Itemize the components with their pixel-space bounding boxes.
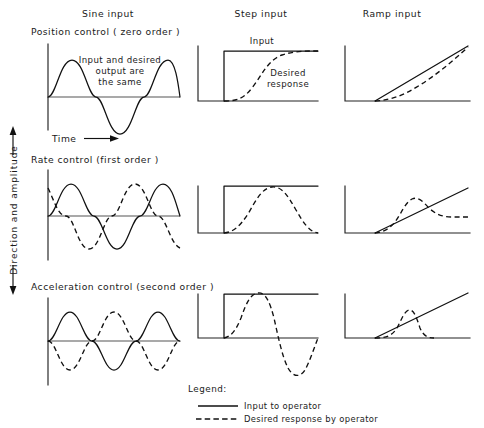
- curve-input-ramp: [375, 293, 468, 338]
- column-header-sine: Sine input: [82, 8, 134, 19]
- legend-item-input: Input to operator: [198, 401, 322, 411]
- curve-desired-ramp-response: [375, 198, 468, 233]
- column-header-ramp: Ramp input: [363, 8, 422, 19]
- curve-desired-step-response: [224, 187, 318, 233]
- panel-rate-ramp: [345, 186, 470, 233]
- column-header-step: Step input: [235, 8, 288, 19]
- panel-axes: [198, 186, 318, 233]
- row-position-control: Position control ( zero order ) Input an…: [31, 26, 470, 134]
- legend-item-desired: Desired response by operator: [196, 414, 378, 424]
- panel-acceleration-sine: [48, 298, 180, 385]
- annotation-sine-position-line2: output are: [96, 66, 145, 76]
- legend-title: Legend:: [188, 384, 227, 394]
- time-axis-label: Time: [51, 133, 76, 144]
- time-axis-group: Time: [51, 133, 119, 144]
- panel-rate-sine: [48, 170, 180, 260]
- curve-input-ramp: [375, 46, 468, 101]
- panel-position-sine: Input and desired output are the same: [48, 44, 180, 134]
- annotation-sine-position-line3: the same: [98, 77, 141, 87]
- annotation-step-input-label: Input: [250, 36, 274, 46]
- panel-acceleration-step: [198, 293, 318, 375]
- curve-input-step: [224, 294, 318, 338]
- curve-input-ramp: [375, 188, 468, 233]
- panel-acceleration-ramp: [345, 293, 470, 338]
- figure-container: Sine input Step input Ramp input Directi…: [0, 0, 484, 428]
- panel-position-step: Input Desired response: [198, 36, 318, 101]
- panel-position-ramp: [345, 46, 470, 101]
- panel-axes: [345, 186, 470, 233]
- legend-label-input: Input to operator: [244, 401, 322, 411]
- row-title-acceleration: Acceleration control (second order ): [31, 281, 214, 292]
- annotation-step-desired-line2: response: [267, 79, 309, 89]
- arrow-up-icon: [10, 126, 17, 135]
- row-acceleration-control: Acceleration control (second order ): [31, 281, 470, 385]
- arrow-right-icon: [110, 135, 119, 142]
- curve-input-step: [224, 186, 318, 233]
- panel-axes: [198, 294, 318, 338]
- vertical-axis-label: Direction and amplitude: [9, 145, 19, 275]
- row-rate-control: Rate control (first order ): [31, 154, 470, 260]
- row-title-rate: Rate control (first order ): [31, 154, 159, 165]
- vertical-axis-group: Direction and amplitude: [9, 126, 19, 295]
- panel-rate-step: [198, 186, 318, 233]
- curve-desired-step-response: [224, 293, 318, 375]
- legend: Legend: Input to operator Desired respon…: [188, 384, 378, 424]
- annotation-sine-position-line1: Input and desired: [79, 55, 161, 65]
- legend-label-desired: Desired response by operator: [244, 414, 378, 424]
- annotation-step-desired-line1: Desired: [270, 68, 306, 78]
- arrow-down-icon: [10, 286, 17, 295]
- row-title-position: Position control ( zero order ): [31, 26, 180, 37]
- control-order-diagram: Sine input Step input Ramp input Directi…: [0, 0, 484, 428]
